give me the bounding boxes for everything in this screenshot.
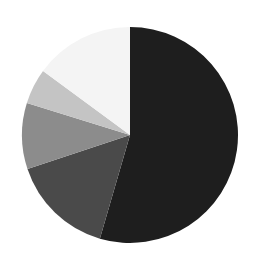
pie-chart [0, 0, 270, 265]
